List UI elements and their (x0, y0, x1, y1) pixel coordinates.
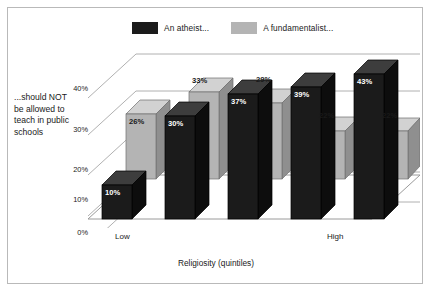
data-label-atheist-3: 37% (231, 97, 246, 106)
legend-label-fundamentalist: A fundamentalist... (263, 23, 333, 33)
data-label-atheist-2: 30% (168, 119, 183, 128)
y-tick-30: 30% (58, 125, 88, 134)
y-tick-0: 0% (58, 228, 88, 237)
y-tick-20: 20% (58, 165, 88, 174)
legend-item-fundamentalist: A fundamentalist... (231, 22, 333, 34)
chart-figure: An atheist... A fundamentalist... ...sho… (0, 0, 432, 293)
data-label-fundamentalist-2: 33% (192, 76, 207, 85)
data-label-fundamentalist-1: 26% (129, 117, 144, 126)
plot-area: 10% 30% 37% 39% 43% 26% 33% 29% 22% 22% (88, 48, 420, 223)
data-label-atheist-1: 10% (105, 188, 120, 197)
chart-legend: An atheist... A fundamentalist... (132, 22, 333, 34)
x-tick-high: High (327, 232, 343, 241)
bar-fundamentalist-1 (126, 100, 170, 179)
legend-item-atheist: An atheist... (132, 22, 209, 34)
x-tick-low: Low (115, 232, 130, 241)
data-label-fundamentalist-5: 22% (382, 111, 397, 120)
data-label-atheist-4: 39% (294, 90, 309, 99)
data-label-fundamentalist-4: 22% (319, 111, 334, 120)
data-label-fundamentalist-3: 29% (256, 75, 271, 84)
y-tick-40: 40% (58, 84, 88, 93)
x-axis-title: Religiosity (quintiles) (0, 258, 432, 268)
legend-label-atheist: An atheist... (164, 23, 209, 33)
legend-swatch-atheist (132, 22, 158, 34)
y-tick-10: 10% (58, 195, 88, 204)
legend-swatch-fundamentalist (231, 22, 257, 34)
data-label-atheist-5: 43% (357, 77, 372, 86)
plot-svg (88, 48, 420, 228)
